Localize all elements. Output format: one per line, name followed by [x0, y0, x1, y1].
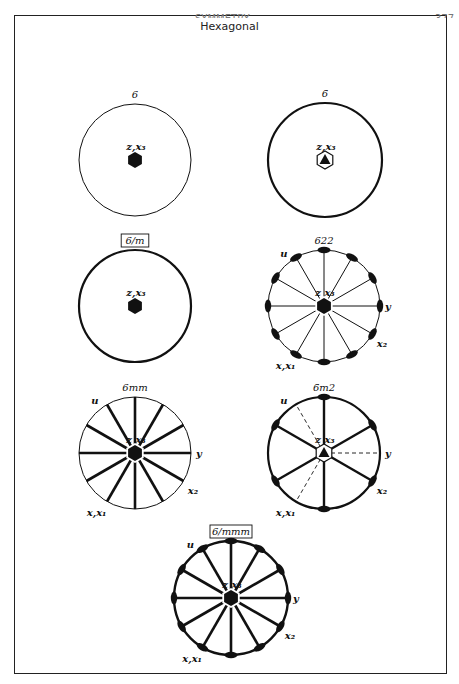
stereogram-622: 622z x₃uyx₂x,x₁ — [265, 235, 392, 372]
twofold-axis-lens-icon — [345, 251, 359, 263]
axis-label-xx: x,x₁ — [86, 507, 107, 519]
twofold-axis-lens-icon — [318, 394, 331, 400]
twofold-axis-lens-icon — [171, 592, 177, 605]
twofold-axis-lens-icon — [318, 506, 331, 512]
stereogram--6m2: 6̄m2z x₃uyx₂x,x₁ — [268, 382, 392, 519]
stereogram-6mm: 6mmz x₃uyx₂x,x₁ — [79, 382, 203, 519]
axis-label-u: u — [280, 395, 287, 406]
twofold-axis-lens-icon — [289, 348, 303, 360]
axis-label-x: x₂ — [284, 630, 296, 641]
stereogram--6: 6̄z,x₃ — [268, 88, 382, 217]
twofold-axis-lens-icon — [318, 247, 331, 253]
point-group-symbol: 6/mmm — [212, 526, 250, 537]
twofold-axis-lens-icon — [285, 592, 291, 605]
twofold-axis-lens-icon — [269, 327, 281, 341]
stereogram-6/mmm: 6/mmmz x₃uyx₂x,x₁ — [171, 525, 300, 665]
twofold-axis-lens-icon — [366, 271, 378, 285]
point-group-symbol: 6̄ — [322, 88, 329, 99]
axis-label-u: u — [280, 248, 287, 259]
axis-label-x: x₂ — [187, 485, 199, 496]
twofold-axis-lens-icon — [225, 652, 238, 658]
center-axis-label: z x₃ — [221, 579, 242, 590]
stereogram-6: 6z,x₃ — [79, 89, 191, 216]
twofold-axis-lens-icon — [289, 251, 303, 263]
axis-label-x: x₂ — [376, 485, 388, 496]
center-axis-label: z x₃ — [314, 287, 335, 298]
sixfold-axis-hexagon-icon — [128, 298, 142, 314]
twofold-axis-lens-icon — [318, 359, 331, 365]
point-group-symbol: 6̄m2 — [313, 382, 335, 393]
axis-label-u: u — [187, 539, 194, 550]
center-axis-label: z,x₃ — [125, 141, 146, 153]
axis-label-y: y — [195, 448, 203, 459]
axis-label-xx: x,x₁ — [275, 507, 296, 519]
axis-label-xx: x,x₁ — [181, 653, 202, 665]
axis-label-xx: x,x₁ — [275, 360, 296, 372]
stereogram-diagram: 6z,x₃6̄z,x₃6/mz,x₃622z x₃uyx₂x,x₁6mmz x₃… — [0, 0, 459, 684]
twofold-axis-lens-icon — [265, 300, 271, 313]
twofold-axis-lens-icon — [345, 348, 359, 360]
point-group-symbol: 6 — [132, 89, 139, 100]
point-group-symbol: 6/m — [125, 235, 144, 246]
stereogram-6/m: 6/mz,x₃ — [79, 234, 191, 362]
sixfold-axis-hexagon-icon — [128, 152, 142, 168]
axis-label-y: y — [292, 593, 300, 604]
center-axis-label: z x₃ — [314, 434, 335, 445]
point-group-symbol: 6mm — [122, 382, 147, 393]
axis-label-u: u — [91, 395, 98, 406]
twofold-axis-lens-icon — [377, 300, 383, 313]
center-axis-label: z x₃ — [125, 434, 146, 445]
center-axis-label: z,x₃ — [125, 287, 146, 299]
axis-label-y: y — [384, 448, 392, 459]
axis-label-x: x₂ — [376, 338, 388, 349]
twofold-axis-lens-icon — [269, 271, 281, 285]
point-group-symbol: 622 — [314, 235, 333, 246]
center-axis-label: z,x₃ — [315, 141, 336, 153]
twofold-axis-lens-icon — [225, 538, 238, 544]
axis-label-y: y — [384, 301, 392, 312]
